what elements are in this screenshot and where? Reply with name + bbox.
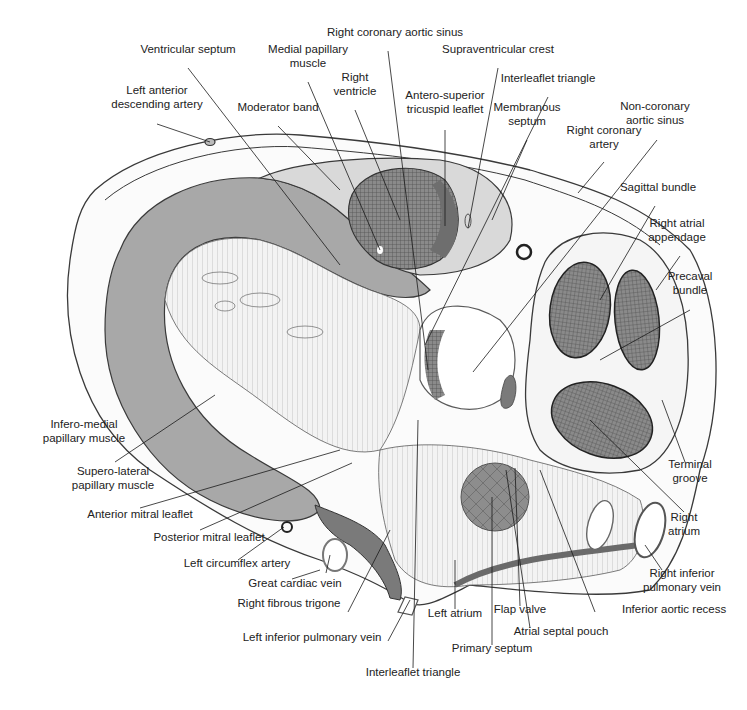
label-left-inferior-pulmonary-vein: Left inferior pulmonary vein	[243, 630, 382, 644]
label-antero-superior-tricuspid-leaflet: Antero-superior tricuspid leaflet	[405, 88, 484, 116]
label-medial-papillary-muscle: Medial papillary muscle	[268, 42, 348, 70]
label-precaval-bundle: Precaval bundle	[668, 269, 713, 297]
label-right-inferior-pulmonary-vein: Right inferior pulmonary vein	[643, 566, 721, 594]
aortic-root	[420, 306, 516, 409]
right-atrium-region	[526, 233, 689, 473]
label-primary-septum: Primary septum	[452, 641, 533, 655]
label-posterior-mitral-leaflet: Posterior mitral leaflet	[153, 530, 264, 544]
label-interleaflet-triangle-top: Interleaflet triangle	[501, 71, 596, 85]
label-sagittal-bundle: Sagittal bundle	[620, 180, 696, 194]
label-flap-valve: Flap valve	[494, 602, 546, 616]
label-right-ventricle: Right ventricle	[334, 70, 377, 98]
label-interleaflet-triangle-bottom: Interleaflet triangle	[366, 665, 461, 679]
label-terminal-groove: Terminal groove	[668, 457, 711, 485]
label-anterior-mitral-leaflet: Anterior mitral leaflet	[87, 507, 192, 521]
label-right-fibrous-trigone: Right fibrous trigone	[238, 596, 341, 610]
label-supero-lateral-papillary-muscle: Supero-lateral papillary muscle	[72, 464, 154, 492]
label-great-cardiac-vein: Great cardiac vein	[248, 576, 341, 590]
label-right-coronary-artery: Right coronary artery	[567, 123, 642, 151]
label-ventricular-septum: Ventricular septum	[140, 42, 235, 56]
label-right-coronary-aortic-sinus: Right coronary aortic sinus	[327, 25, 463, 39]
label-right-atrial-appendage: Right atrial appendage	[648, 216, 706, 244]
leader-line-left-anterior-descending-artery	[157, 124, 210, 142]
label-atrial-septal-pouch: Atrial septal pouch	[514, 624, 609, 638]
label-left-atrium: Left atrium	[428, 606, 482, 620]
label-membranous-septum: Membranous septum	[493, 100, 560, 128]
label-left-circumflex-artery: Left circumflex artery	[184, 556, 291, 570]
label-left-anterior-descending-artery: Left anterior descending artery	[111, 83, 202, 111]
label-infero-medial-papillary-muscle: Infero-medial papillary muscle	[43, 417, 125, 445]
label-moderator-band: Moderator band	[237, 100, 318, 114]
label-right-atrium: Right atrium	[668, 510, 700, 538]
leader-line-left-inferior-pulmonary-vein	[388, 600, 410, 641]
leader-line-right-coronary-artery	[578, 162, 604, 193]
label-supraventricular-crest: Supraventricular crest	[442, 42, 554, 56]
label-inferior-aortic-recess: Inferior aortic recess	[622, 602, 726, 616]
